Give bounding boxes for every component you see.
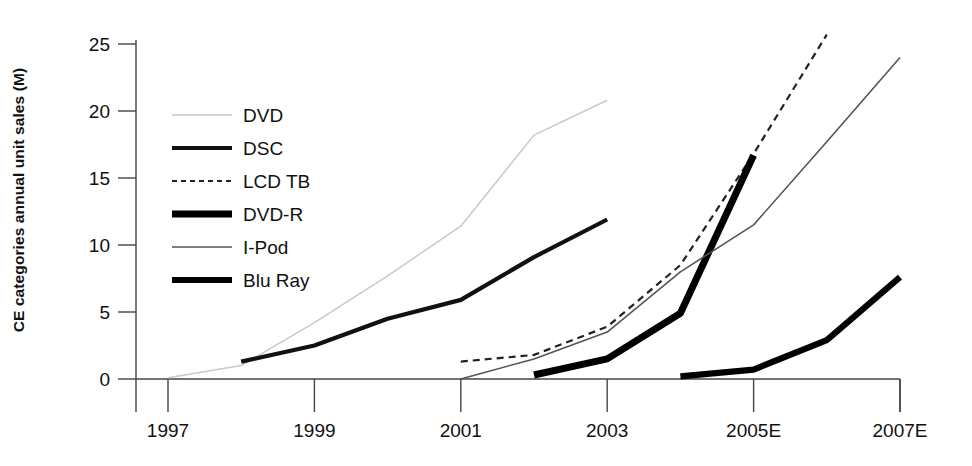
y-axis-tick-label: 5 bbox=[99, 302, 110, 323]
x-axis-tick-label: 1999 bbox=[293, 420, 335, 441]
y-axis-tick-label: 25 bbox=[89, 34, 110, 55]
x-axis: 19971999200120032005E2007E bbox=[136, 379, 927, 441]
series-line-blu-ray bbox=[680, 277, 900, 376]
y-axis-tick-label: 0 bbox=[99, 369, 110, 390]
legend-label-i-pod: I-Pod bbox=[243, 237, 288, 258]
line-chart-plot: 0510152025 19971999200120032005E2007E DV… bbox=[0, 0, 972, 466]
y-axis-tick-label: 20 bbox=[89, 101, 110, 122]
chart-legend: DVDDSCLCD TBDVD-RI-PodBlu Ray bbox=[172, 105, 310, 291]
chart-container: CE categories annual unit sales (M) 0510… bbox=[0, 0, 972, 466]
legend-label-dvd-r: DVD-R bbox=[243, 204, 303, 225]
y-axis: 0510152025 bbox=[89, 34, 136, 390]
legend-label-dsc: DSC bbox=[243, 138, 283, 159]
x-axis-tick-label: 1997 bbox=[147, 420, 189, 441]
x-axis-tick-label: 2003 bbox=[586, 420, 628, 441]
series-line-dvd bbox=[168, 100, 607, 377]
x-axis-tick-label: 2001 bbox=[440, 420, 482, 441]
series-line-lcd-tb bbox=[461, 35, 827, 362]
y-axis-tick-label: 10 bbox=[89, 235, 110, 256]
legend-label-blu-ray: Blu Ray bbox=[243, 270, 310, 291]
x-axis-tick-label: 2005E bbox=[726, 420, 781, 441]
legend-label-dvd: DVD bbox=[243, 105, 283, 126]
y-axis-tick-label: 15 bbox=[89, 168, 110, 189]
x-axis-tick-label: 2007E bbox=[873, 420, 928, 441]
legend-label-lcd-tb: LCD TB bbox=[243, 171, 310, 192]
